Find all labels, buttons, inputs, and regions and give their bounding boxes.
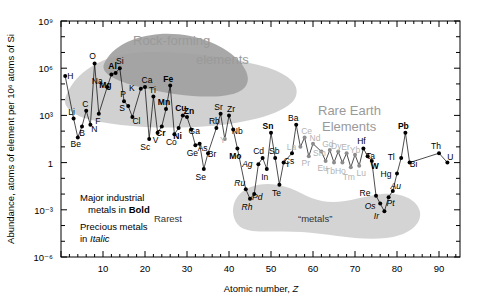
element-symbol-label: Pd <box>252 192 263 202</box>
element-symbol-label: Nb <box>232 126 243 136</box>
rarest-label: Rarest <box>154 213 182 224</box>
element-point: Sn <box>263 121 274 135</box>
element-point: Cd <box>253 146 264 160</box>
element-symbol-label: Rh <box>242 202 253 212</box>
x-tick-label: 10 <box>98 263 109 274</box>
italic-note-line2: in Italic <box>80 233 110 244</box>
y-tick-label: 10⁻⁶ <box>34 252 54 263</box>
element-marker <box>332 161 336 165</box>
element-symbol-label: O <box>89 51 96 61</box>
element-symbol-label: Ge <box>187 148 199 158</box>
element-point: U <box>445 152 453 165</box>
element-symbol-label: In <box>261 172 268 182</box>
element-symbol-label: Ru <box>234 178 245 188</box>
element-symbol-label: Br <box>208 149 217 159</box>
y-axis-title: Abundance, atoms of element per 10⁶ atom… <box>5 34 16 244</box>
element-symbol-label: Tl <box>388 152 395 162</box>
element-marker <box>93 61 97 65</box>
element-point: Ag <box>241 159 260 169</box>
element-marker <box>235 146 239 150</box>
element-symbol-label: Mg <box>99 80 111 90</box>
element-marker <box>84 109 88 113</box>
legend-notes: Major industrial metals in Bold Precious… <box>80 192 150 244</box>
element-point: In <box>261 167 269 182</box>
element-marker <box>261 156 265 160</box>
element-point: H <box>63 71 73 81</box>
element-symbol-label: K <box>129 83 135 93</box>
element-point: Bi <box>408 159 418 169</box>
element-symbol-label: Pr <box>302 158 311 168</box>
element-marker <box>382 209 386 213</box>
element-symbol-label: W <box>371 161 380 171</box>
element-point: As <box>198 142 208 153</box>
element-symbol-label: Au <box>390 181 402 191</box>
element-symbol-label: Hf <box>357 136 366 146</box>
bold-note-line1: Major industrial <box>80 192 144 203</box>
x-axis-title: Atomic number, Z <box>224 283 300 294</box>
element-point: Se <box>196 167 207 182</box>
element-point: Yb <box>350 145 361 157</box>
element-symbol-label: Cr <box>156 128 166 138</box>
element-symbol-label: Be <box>71 139 82 149</box>
element-symbol-label: Sb <box>269 146 280 156</box>
element-symbol-label: Sc <box>140 142 151 152</box>
element-marker <box>298 145 302 149</box>
element-symbol-label: Cl <box>132 116 140 126</box>
element-symbol-label: Tb <box>325 166 335 176</box>
rare-earth-label-line1: Rare Earth <box>318 103 381 118</box>
element-point: Ge <box>187 143 199 158</box>
element-point: Ru <box>234 178 247 191</box>
element-point: Au <box>390 181 402 193</box>
y-tick-label: 1 <box>48 158 53 169</box>
element-symbol-label: Zn <box>184 106 194 116</box>
y-tick-label: 10⁶ <box>39 63 54 74</box>
element-symbol-label: Te <box>272 188 281 198</box>
element-point: Pb <box>398 121 409 135</box>
element-point: O <box>89 51 96 65</box>
element-marker <box>202 167 206 171</box>
element-symbol-label: Ti <box>149 85 156 95</box>
element-point: Lu <box>356 164 366 178</box>
element-marker <box>273 156 277 160</box>
element-marker <box>361 146 365 150</box>
element-point: Nb <box>231 126 243 136</box>
element-symbol-label: Sn <box>263 121 274 131</box>
element-symbol-label: Si <box>116 56 124 66</box>
element-point: Ba <box>288 113 299 127</box>
element-point: Rb <box>209 116 220 130</box>
element-point: Ni <box>173 126 182 141</box>
y-tick-label: 10³ <box>39 110 53 121</box>
x-tick-label: 20 <box>140 263 151 274</box>
element-symbol-label: Zr <box>227 104 235 114</box>
element-marker <box>177 126 181 130</box>
element-marker <box>277 183 281 187</box>
element-marker <box>126 104 130 108</box>
bold-note-line2: metals in Bold <box>88 204 150 215</box>
element-point: B <box>79 124 85 138</box>
element-symbol-label: Ni <box>173 131 182 141</box>
element-marker <box>395 172 399 176</box>
rare-earth-label-line2: Elements <box>322 119 377 134</box>
x-tick-label: 90 <box>434 263 445 274</box>
element-symbol-label: Pt <box>387 198 396 208</box>
element-symbol-label: U <box>447 152 453 162</box>
element-symbol-label: Tm <box>343 172 355 182</box>
element-marker <box>219 112 223 116</box>
element-marker <box>294 123 298 127</box>
element-symbol-label: H <box>67 71 73 81</box>
element-point: Pd <box>252 192 263 202</box>
element-symbol-label: Cs <box>284 156 294 166</box>
element-marker <box>349 165 353 169</box>
element-point: Sm <box>313 148 326 158</box>
element-point: Cs <box>284 151 294 166</box>
element-symbol-label: Ga <box>189 126 201 136</box>
element-marker <box>265 167 269 171</box>
element-symbol-label: Rb <box>209 116 220 126</box>
rock-forming-label-line2: elements <box>196 52 249 67</box>
element-point: Cl <box>130 115 140 126</box>
x-tick-label: 70 <box>350 263 361 274</box>
abundance-figure: Rock-forming elements Rare Earth Element… <box>0 0 478 305</box>
element-symbol-label: Pb <box>398 121 409 131</box>
x-tick-label: 40 <box>224 263 235 274</box>
element-marker <box>374 194 378 198</box>
